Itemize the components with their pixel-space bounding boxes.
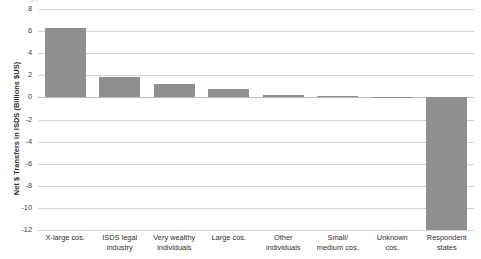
x-tick-label: Unknown cos. [365,233,420,252]
bar[interactable] [263,95,304,98]
bar-slot[interactable] [311,9,366,230]
plot-area: 86420-2-4-6-8-10-12 [38,9,474,230]
x-tick-label: Respondent states [420,233,475,252]
bar-slot[interactable] [420,9,475,230]
bar-slot[interactable] [202,9,257,230]
bar-slot[interactable] [365,9,420,230]
y-tick-label: 8 [4,4,32,13]
bar[interactable] [154,84,195,98]
y-tick-label: 4 [4,48,32,57]
bar-slot[interactable] [256,9,311,230]
bar[interactable] [99,77,140,97]
y-tick-label: -4 [4,137,32,146]
x-tick-label: Large cos. [202,233,257,243]
x-tick-label: X-large cos. [38,233,93,243]
bar[interactable] [45,28,86,97]
bar[interactable] [208,89,249,98]
y-tick-label: 2 [4,70,32,79]
y-tick-label: -8 [4,181,32,190]
bar-slot[interactable] [93,9,148,230]
y-tick-label: -12 [4,225,32,234]
y-tick-label: -2 [4,115,32,124]
x-tick-label: ISDS legal industry [93,233,148,252]
x-tick-label: Very wealthy individuals [147,233,202,252]
bar-slot[interactable] [38,9,93,230]
bar-chart: 10 Net $ Transfers in ISDS (Billions $US… [0,0,481,259]
x-tick-label: Small/ medium cos. [311,233,366,252]
x-axis-labels: X-large cos.ISDS legal industryVery weal… [38,233,474,259]
bar[interactable] [317,96,358,97]
bar[interactable] [372,97,413,98]
y-tick-label: 0 [4,92,32,101]
bar-series [38,9,474,230]
bar[interactable] [426,97,467,230]
gridline [38,230,474,231]
bar-slot[interactable] [147,9,202,230]
x-tick-label: Other individuals [256,233,311,252]
y-tick-label: -10 [4,203,32,212]
y-tick-label: -6 [4,159,32,168]
y-tick-label: 6 [4,26,32,35]
